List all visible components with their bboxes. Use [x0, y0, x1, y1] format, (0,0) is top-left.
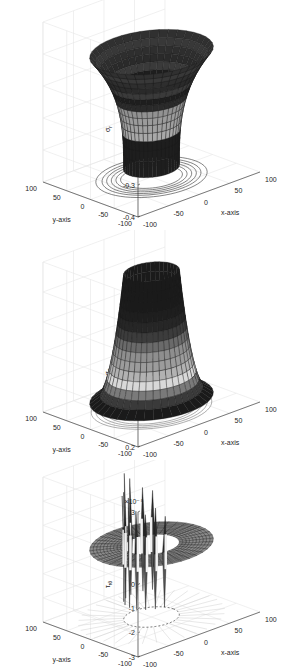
- x-tick-label: 50: [235, 627, 243, 634]
- y-tick-label: 0: [81, 433, 85, 440]
- x-axis-label: x-axis: [221, 439, 240, 446]
- x-tick-label: -50: [174, 650, 184, 657]
- x-tick-label: 0: [204, 199, 208, 206]
- x-tick-label: 0: [204, 429, 208, 436]
- y-tick-label: 100: [25, 625, 37, 632]
- z-tick-label: 0: [131, 581, 135, 588]
- y-tick-label: 0: [81, 643, 85, 650]
- x-tick-label: -50: [174, 440, 184, 447]
- x-tick-label: 0: [204, 639, 208, 646]
- y-tick-label: -100: [118, 660, 132, 667]
- sigma-r-surface-chart: 0.10-0.1-0.2-0.3-0.4100500-50-100-100-50…: [0, 0, 292, 230]
- y-tick-label: 100: [25, 415, 37, 422]
- x-tick-label: 100: [265, 176, 277, 183]
- y-tick-label: -50: [98, 441, 108, 448]
- surface: [90, 262, 214, 421]
- x-tick-label: -50: [174, 210, 184, 217]
- x-tick-label: 50: [235, 187, 243, 194]
- y-tick-label: 50: [53, 424, 61, 431]
- x-tick-label: 100: [265, 406, 277, 413]
- x-axis-label: x-axis: [221, 649, 240, 656]
- x-tick-label: 50: [235, 417, 243, 424]
- plot-sigma-r: 0.10-0.1-0.2-0.3-0.4100500-50-100-100-50…: [0, 0, 292, 230]
- y-axis-label: y-axis: [53, 216, 72, 224]
- x-tick-label: -100: [143, 661, 157, 668]
- z-exponent-label: ×10⁻⁸: [125, 498, 144, 505]
- x-axis-label: x-axis: [221, 209, 240, 216]
- y-tick-label: -100: [118, 450, 132, 457]
- plot-sigma-theta: 0.70.60.50.40.30.2100500-50-100-100-5005…: [0, 230, 292, 460]
- tau-r-theta-surface-chart: 3210-1-2-3100500-50-100-100-50050100y-ax…: [0, 460, 292, 669]
- y-tick-label: 100: [25, 185, 37, 192]
- y-tick-label: -50: [98, 211, 108, 218]
- y-tick-label: 50: [53, 634, 61, 641]
- z-tick-label: 3: [131, 509, 135, 516]
- y-tick-label: -100: [118, 220, 132, 227]
- sigma-theta-surface-chart: 0.70.60.50.40.30.2100500-50-100-100-5005…: [0, 230, 292, 460]
- y-tick-label: -50: [98, 651, 108, 658]
- y-tick-label: 50: [53, 194, 61, 201]
- y-axis-label: y-axis: [53, 656, 72, 664]
- z-axis-label: σr: [104, 126, 113, 132]
- y-axis-label: y-axis: [53, 446, 72, 454]
- x-tick-label: 100: [265, 616, 277, 623]
- x-tick-label: -100: [143, 221, 157, 228]
- x-tick-label: -100: [143, 451, 157, 458]
- plot-tau-r-theta: 3210-1-2-3100500-50-100-100-50050100y-ax…: [0, 460, 292, 669]
- z-axis-label: τrθ: [104, 581, 113, 588]
- y-tick-label: 0: [81, 203, 85, 210]
- surface: [90, 29, 214, 177]
